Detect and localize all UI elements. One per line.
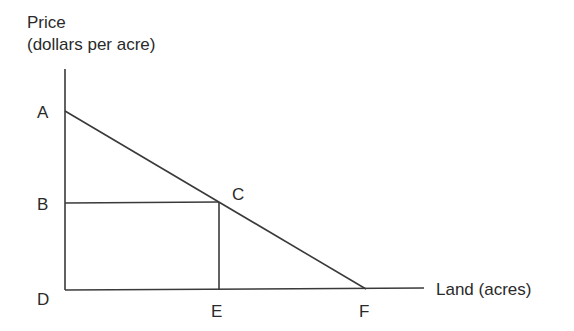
point-label-c: C: [232, 186, 244, 203]
y-axis-label-units: (dollars per acre): [27, 36, 156, 53]
price-line-bc: [65, 202, 219, 203]
point-label-d: D: [37, 291, 49, 308]
x-axis-label: Land (acres): [436, 281, 531, 298]
point-label-a: A: [37, 104, 48, 121]
point-label-f: F: [359, 303, 369, 320]
point-label-b: B: [37, 196, 48, 213]
point-label-e: E: [211, 303, 222, 320]
demand-line: [65, 111, 366, 289]
y-axis-label-title: Price: [27, 14, 66, 31]
x-axis: [65, 288, 424, 290]
